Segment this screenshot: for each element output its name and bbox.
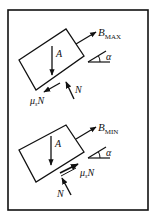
pull-force-arrow-icon bbox=[76, 127, 96, 139]
angle-incline bbox=[88, 51, 106, 62]
free-body-diagrams: A BMAX α N μsN A BMIN α μsN N bbox=[0, 0, 157, 220]
pull-force-arrow-icon bbox=[76, 32, 96, 44]
weight-label: A bbox=[55, 48, 63, 59]
friction-arrow-icon bbox=[44, 83, 60, 92]
angle-arc bbox=[99, 56, 101, 62]
weight-label: A bbox=[54, 138, 62, 149]
friction-label: μsN bbox=[79, 167, 95, 179]
normal-label: N bbox=[74, 84, 83, 95]
friction-label: μsN bbox=[29, 95, 45, 107]
outer-frame bbox=[8, 10, 148, 210]
pull-force-label: BMAX bbox=[98, 26, 121, 41]
angle-label: α bbox=[106, 147, 112, 158]
panel-min: A BMIN α μsN N bbox=[19, 121, 118, 199]
panel-max: A BMAX α N μsN bbox=[19, 26, 121, 107]
angle-label: α bbox=[106, 51, 112, 62]
pull-force-label: BMIN bbox=[98, 121, 118, 136]
angle-incline bbox=[88, 147, 106, 158]
normal-force-arrow-icon bbox=[66, 82, 74, 99]
normal-label: N bbox=[56, 188, 65, 199]
angle-arc bbox=[99, 152, 101, 158]
